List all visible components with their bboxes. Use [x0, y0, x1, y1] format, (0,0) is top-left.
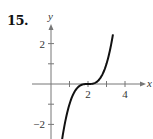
- y-axis: [49, 24, 54, 139]
- x-axis-arrow-icon: [140, 82, 146, 87]
- y-axis-arrow-icon: [49, 24, 54, 30]
- graph: 24 −22 x y: [0, 0, 153, 139]
- x-tick-label: 2: [85, 88, 91, 100]
- y-axis-label: y: [47, 10, 53, 22]
- x-tick-label: 4: [122, 88, 128, 100]
- x-axis-label: x: [146, 77, 152, 89]
- y-tick-label: −2: [33, 118, 45, 130]
- y-tick-label: 2: [40, 38, 46, 50]
